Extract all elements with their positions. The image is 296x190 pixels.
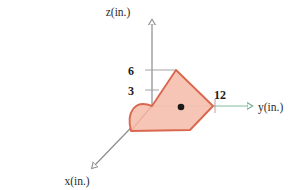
tick-label-3: 3 (128, 84, 134, 98)
z-axis-label: z(in.) (106, 6, 131, 19)
y-axis-label: y(in.) (258, 101, 283, 114)
figure-canvas: 6 3 12 z(in.) y(in.) x(in.) (0, 0, 296, 190)
tick-label-6: 6 (128, 64, 134, 78)
shaded-area-path (130, 70, 213, 131)
tick-label-12: 12 (214, 88, 226, 102)
diagram-svg: 6 3 12 z(in.) y(in.) x(in.) (0, 0, 296, 190)
x-axis-label: x(in.) (64, 175, 89, 188)
centroid-dot (178, 104, 185, 111)
shaded-area (130, 70, 213, 131)
